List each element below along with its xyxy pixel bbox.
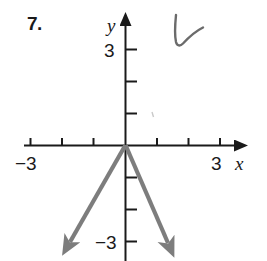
faint-smudge-mark	[152, 112, 154, 117]
y-axis-max-label: 3	[104, 40, 115, 61]
y-axis-min-label: −3	[95, 232, 117, 253]
function-graph	[70, 145, 168, 243]
y-axis	[125, 24, 137, 261]
x-axis-min-label: −3	[15, 153, 37, 174]
x-axis-name-label: x	[234, 153, 244, 174]
coordinate-plane-graph: −3 3 3 −3 y x	[0, 0, 267, 261]
x-axis	[24, 138, 236, 146]
graph-ray-right	[126, 145, 169, 243]
graph-ray-left	[70, 145, 126, 242]
x-axis-max-label: 3	[211, 153, 222, 174]
y-axis-name-label: y	[105, 15, 116, 36]
handwritten-check-mark-icon	[175, 15, 203, 45]
graph-figure: 7.	[0, 0, 267, 261]
